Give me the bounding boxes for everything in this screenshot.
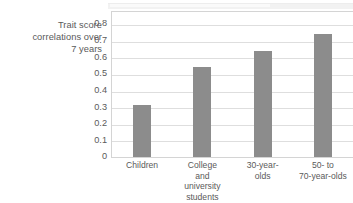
x-axis-tick-label-line: olds [233, 171, 293, 182]
y-axis-tick-label: 0.8 [77, 19, 107, 28]
y-axis-tick-label: 0.5 [77, 69, 107, 78]
y-axis-tick-label: 0 [77, 152, 107, 161]
y-axis-tick-label: 0.6 [77, 53, 107, 62]
bar[interactable] [133, 105, 151, 157]
y-axis-tick-label: 0.4 [77, 86, 107, 95]
y-axis-tick-label: 0.1 [77, 136, 107, 145]
bar-slot [293, 11, 353, 157]
bar-slot [233, 11, 293, 157]
x-axis-tick-label-line: students [172, 192, 232, 203]
y-axis-tick-label: 0.2 [77, 119, 107, 128]
x-axis-tick-label-line: 50- to [293, 160, 353, 171]
chart-screenshot: Trait score correlations over 7 years 0.… [0, 0, 353, 203]
y-axis-tick-label: 0.7 [77, 36, 107, 45]
x-axis-tick-label: Children [112, 160, 172, 171]
y-axis-tick-label: 0.3 [77, 103, 107, 112]
bar-slot [172, 11, 232, 157]
clipped-top-band [108, 3, 353, 9]
x-axis-tick-label-line: university [172, 181, 232, 192]
x-axis-tick-label: 30-year-olds [233, 160, 293, 181]
x-axis-tick-label: 50- to70-year-olds [293, 160, 353, 181]
x-axis-tick-label: Collegeanduniversitystudents [172, 160, 232, 202]
x-axis-tick-label-line: and [172, 171, 232, 182]
x-axis-tick-labels: ChildrenCollegeanduniversitystudents30-y… [112, 160, 353, 203]
x-axis-tick-label-line: Children [112, 160, 172, 171]
bar[interactable] [254, 51, 272, 157]
x-axis-tick-label-line: 30-year- [233, 160, 293, 171]
bar[interactable] [314, 34, 332, 157]
bar-slot [112, 11, 172, 157]
clipped-top-text [110, 4, 270, 7]
bar[interactable] [193, 67, 211, 157]
bar-series [112, 11, 353, 157]
x-axis-tick-label-line: College [172, 160, 232, 171]
x-axis-tick-label-line: 70-year-olds [293, 171, 353, 182]
